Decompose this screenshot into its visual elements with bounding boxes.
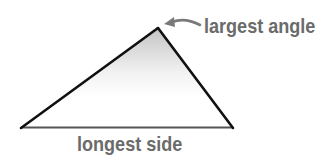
largest-angle-label: largest angle [204, 14, 315, 38]
longest-side-label: longest side [77, 132, 182, 155]
pointer-arrow-icon [164, 17, 200, 27]
triangle-fill [21, 28, 233, 128]
